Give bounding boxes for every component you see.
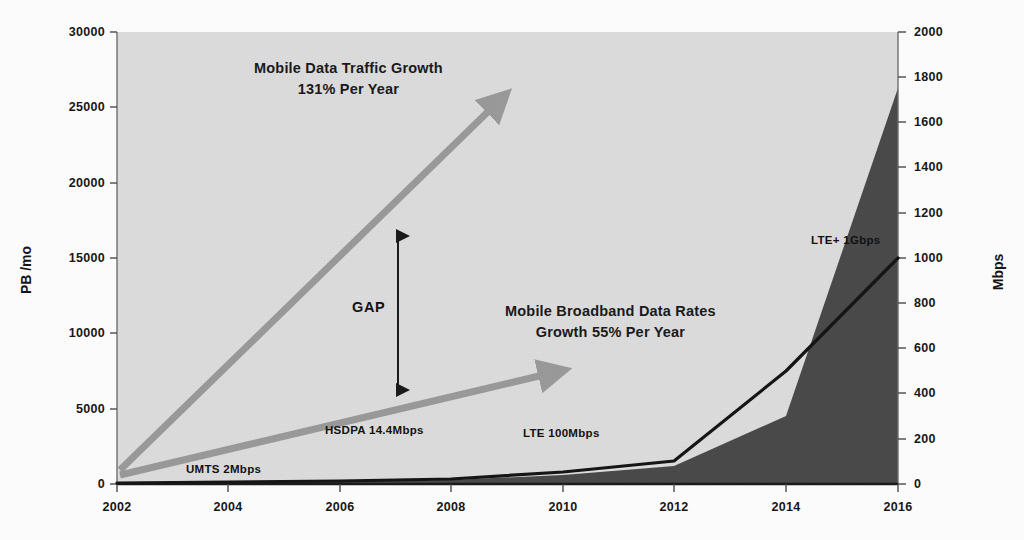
y-left-tick-25000: 25000: [0, 100, 105, 114]
gap-label: GAP: [352, 299, 385, 315]
y-right-tick-1400: 1400: [914, 160, 943, 174]
data-rates-annotation-line1: Mobile Broadband Data Rates: [505, 301, 716, 322]
y-right-tick-1000: 1000: [914, 251, 943, 265]
data-rates-annotation-line2: Growth 55% Per Year: [505, 322, 716, 343]
lte-label: LTE 100Mbps: [523, 427, 600, 439]
y-axis-left-ticks: [110, 32, 117, 484]
plot-background: [117, 32, 898, 484]
y-left-tick-30000: 30000: [0, 25, 105, 39]
traffic-growth-annotation-line1: Mobile Data Traffic Growth: [254, 58, 443, 79]
y-right-tick-400: 400: [914, 386, 936, 400]
x-tick-2006: 2006: [325, 500, 354, 514]
y-left-tick-20000: 20000: [0, 176, 105, 190]
y-right-tick-800: 800: [914, 296, 936, 310]
lte-plus-label: LTE+ 1Gbps: [811, 234, 881, 246]
traffic-growth-annotation-line2: 131% Per Year: [254, 79, 443, 100]
x-tick-2010: 2010: [548, 500, 577, 514]
y-axis-right-title: Mbps: [990, 254, 1006, 291]
x-tick-2016: 2016: [883, 500, 912, 514]
x-tick-2004: 2004: [213, 500, 242, 514]
y-right-tick-600: 600: [914, 341, 936, 355]
data-rates-annotation: Mobile Broadband Data Rates Growth 55% P…: [505, 301, 716, 343]
x-tick-2002: 2002: [102, 500, 131, 514]
traffic-growth-annotation: Mobile Data Traffic Growth 131% Per Year: [254, 58, 443, 100]
y-left-tick-10000: 10000: [0, 326, 105, 340]
y-left-tick-15000: 15000: [0, 251, 105, 265]
chart-canvas: [0, 0, 1024, 540]
y-axis-left-title: PB /mo: [18, 246, 34, 294]
y-left-tick-5000: 5000: [0, 402, 105, 416]
x-tick-2012: 2012: [659, 500, 688, 514]
umts-label: UMTS 2Mbps: [186, 463, 261, 475]
y-right-tick-1800: 1800: [914, 70, 943, 84]
y-right-tick-2000: 2000: [914, 25, 943, 39]
y-right-tick-1600: 1600: [914, 115, 943, 129]
y-right-tick-200: 200: [914, 432, 936, 446]
mobile-data-gap-chart: 30000 25000 20000 15000 10000 5000 0 200…: [0, 0, 1024, 540]
y-right-tick-1200: 1200: [914, 206, 943, 220]
hsdpa-label: HSDPA 14.4Mbps: [325, 424, 424, 436]
y-right-tick-0: 0: [914, 477, 921, 491]
y-left-tick-0: 0: [0, 477, 105, 491]
x-tick-2014: 2014: [771, 500, 800, 514]
x-tick-2008: 2008: [436, 500, 465, 514]
